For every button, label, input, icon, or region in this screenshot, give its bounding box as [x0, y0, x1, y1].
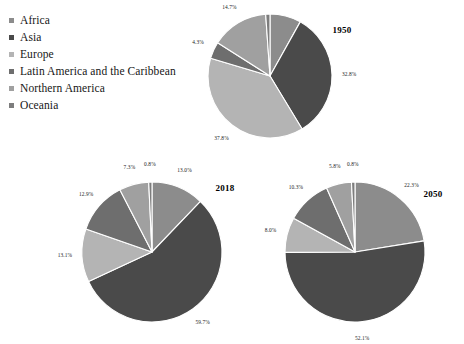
legend-item-label: Northern America: [20, 80, 105, 97]
slice-percentage-label: 5.8%: [329, 164, 341, 169]
slice-percentage-label: 10.3%: [289, 185, 303, 190]
square-marker-icon: [9, 86, 14, 91]
slice-percentage-label: 32.8%: [342, 72, 356, 77]
legend-item-label: Asia: [20, 29, 41, 46]
pie-slice[interactable]: [285, 241, 425, 322]
slice-percentage-label: 0.8%: [347, 162, 359, 167]
pie-chart-2018[interactable]: 13.0%59.7%13.1%12.9%7.3%0.8%2018: [48, 148, 256, 344]
slice-percentage-label: 8.0%: [265, 228, 277, 233]
slice-percentage-label: 0.8%: [144, 162, 156, 167]
square-marker-icon: [9, 18, 14, 23]
slice-percentage-label: 14.7%: [222, 5, 236, 10]
slice-percentage-label: 52.1%: [355, 336, 369, 341]
slice-percentage-label: 7.3%: [124, 165, 136, 170]
legend-item-label: Latin America and the Caribbean: [20, 63, 176, 80]
slice-percentage-label: 13.0%: [177, 168, 191, 173]
pie-year-label: 2018: [216, 183, 235, 193]
pie-slices: [48, 148, 256, 344]
slice-percentage-label: 12.9%: [79, 192, 93, 197]
pie-chart-1950[interactable]: 8.0%32.8%37.8%4.3%14.7%1.1%1950: [174, 0, 366, 172]
slice-percentage-label: 4.3%: [192, 40, 204, 45]
square-marker-icon: [9, 103, 14, 108]
legend-item-label: Africa: [20, 12, 50, 29]
pie-slice[interactable]: [355, 182, 424, 252]
pie-chart-2050[interactable]: 22.3%52.1%8.0%10.3%5.8%0.8%2050: [251, 148, 459, 344]
legend-item-label: Europe: [20, 46, 54, 63]
slice-percentage-label: 8.0%: [284, 0, 296, 2]
slice-percentage-label: 59.7%: [195, 320, 209, 325]
slice-percentage-label: 37.8%: [214, 136, 228, 141]
legend-item-label: Oceania: [20, 97, 58, 114]
square-marker-icon: [9, 69, 14, 74]
slice-percentage-label: 22.3%: [404, 183, 418, 188]
square-marker-icon: [9, 52, 14, 57]
pie-year-label: 2050: [424, 189, 443, 199]
pie-slices: [251, 148, 459, 344]
square-marker-icon: [9, 35, 14, 40]
slice-percentage-label: 13.1%: [58, 254, 72, 259]
pie-year-label: 1950: [333, 25, 352, 35]
